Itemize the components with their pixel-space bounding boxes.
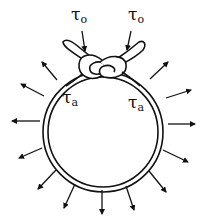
arrow-icon xyxy=(149,171,166,192)
label-tau-o-left: τo xyxy=(71,6,87,25)
arrow-icon xyxy=(21,84,44,96)
arrow-icon xyxy=(127,31,131,50)
ring xyxy=(43,72,163,192)
arrow-icon xyxy=(163,150,188,162)
arrow-icon xyxy=(150,62,168,79)
arrow-icon xyxy=(126,186,134,210)
arrow-icon xyxy=(38,170,56,189)
label-tau-a-right: τa xyxy=(128,94,144,113)
arrow-icon xyxy=(42,62,57,80)
label-tau-a-left: τa xyxy=(62,89,78,108)
arrow-icon xyxy=(166,90,191,98)
knot-ring-diagram xyxy=(0,0,205,220)
arrow-icon xyxy=(82,31,85,51)
reef-knot xyxy=(63,40,145,86)
arrow-icon xyxy=(19,148,42,158)
arrow-icon xyxy=(64,184,75,208)
tension-pointers xyxy=(82,31,131,51)
label-tau-o-right: τo xyxy=(128,6,144,25)
